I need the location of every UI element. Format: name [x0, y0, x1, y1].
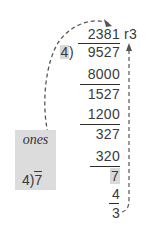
result-step-3: 7 [82, 169, 120, 183]
result-step-4: 3 [82, 206, 120, 220]
ones-box: ones 4)7 [15, 130, 56, 190]
result-step-2: 327 [82, 127, 120, 141]
subtract-step-3: 320 [82, 149, 120, 163]
subtract-step-2: 1200 [82, 107, 120, 121]
vertical-dashed-arrow [122, 50, 129, 212]
dividend: 9527 [82, 45, 120, 59]
subtract-step-1: 8000 [82, 67, 120, 81]
subtract-step-4: 4 [82, 187, 120, 201]
quotient: 2381 [86, 27, 120, 41]
mini-division: 4)7 [22, 172, 42, 188]
highlighted-seven: 7 [110, 168, 120, 184]
ones-label: ones [15, 132, 56, 148]
mini-dividend: 7 [34, 171, 42, 188]
arrowhead-up-icon [126, 43, 132, 51]
mini-divisor: 4 [22, 172, 30, 188]
result-step-1: 1527 [82, 87, 120, 101]
remainder-label: r3 [124, 27, 137, 41]
divisor: 4 [60, 45, 69, 59]
divisor-bracket: ) [69, 45, 74, 59]
